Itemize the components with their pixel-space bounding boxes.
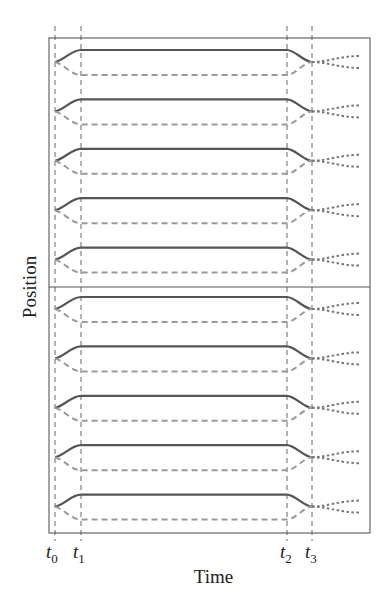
dashed-trajectory <box>55 210 312 223</box>
dashed-trajectory <box>55 358 312 371</box>
fan-upper <box>312 155 360 161</box>
dashed-trajectory <box>55 260 312 273</box>
dashed-trajectory <box>55 309 312 322</box>
tick-label-t3: t3 <box>305 541 317 567</box>
fan-upper <box>312 303 360 309</box>
fan-lower <box>312 210 360 216</box>
tick-label-t0: t0 <box>46 541 58 567</box>
fan-upper <box>312 56 360 62</box>
plot-frame <box>49 38 370 533</box>
fan-lower <box>312 408 360 414</box>
fan-lower <box>312 62 360 68</box>
fan-lower <box>312 507 360 513</box>
solid-trajectory <box>55 99 312 111</box>
fan-upper <box>312 451 360 457</box>
solid-trajectory <box>55 297 312 309</box>
tick-label-t1: t1 <box>73 541 85 567</box>
fan-lower <box>312 358 360 364</box>
fan-upper <box>312 204 360 210</box>
tick-label-t2: t2 <box>280 541 292 567</box>
fan-lower <box>312 161 360 167</box>
fan-upper <box>312 254 360 260</box>
dashed-trajectory <box>55 62 312 75</box>
solid-trajectory <box>55 198 312 210</box>
solid-trajectory <box>55 149 312 161</box>
dashed-trajectory <box>55 408 312 421</box>
fan-upper <box>312 352 360 358</box>
y-axis-label: Position <box>19 247 41 327</box>
fan-upper <box>312 105 360 111</box>
dashed-trajectory <box>55 111 312 124</box>
solid-trajectory <box>55 346 312 358</box>
solid-trajectory <box>55 396 312 408</box>
dashed-trajectory <box>55 161 312 174</box>
dashed-trajectory <box>55 507 312 520</box>
fan-lower <box>312 309 360 315</box>
dashed-trajectory <box>55 457 312 470</box>
tick-t3-subscript: 3 <box>310 551 317 566</box>
solid-trajectory <box>55 495 312 507</box>
x-axis-label: Time <box>0 566 392 588</box>
tick-t1-subscript: 1 <box>78 551 85 566</box>
tick-t2-subscript: 2 <box>285 551 292 566</box>
solid-trajectory <box>55 445 312 457</box>
fan-lower <box>312 111 360 117</box>
fan-upper <box>312 501 360 507</box>
solid-trajectory <box>55 50 312 62</box>
solid-trajectory <box>55 248 312 260</box>
tick-t0-subscript: 0 <box>51 551 58 566</box>
fan-upper <box>312 402 360 408</box>
fan-lower <box>312 260 360 266</box>
plot-area <box>0 0 392 616</box>
fan-lower <box>312 457 360 463</box>
trajectory-figure: t0 t1 t2 t3 Time Position <box>0 0 392 616</box>
